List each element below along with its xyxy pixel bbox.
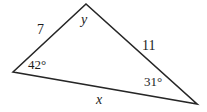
triangle-shape bbox=[0, 0, 207, 112]
side-length-label-bottom: x bbox=[96, 93, 102, 107]
side-length-label-right: 11 bbox=[142, 39, 155, 53]
angle-label-left: 42° bbox=[28, 58, 46, 71]
triangle-diagram: 7 11 x y 42° 31° bbox=[0, 0, 207, 112]
side-length-label-left: 7 bbox=[37, 23, 44, 37]
vertex-angle-label-top: y bbox=[81, 13, 87, 27]
angle-label-right: 31° bbox=[144, 75, 162, 88]
triangle-outline bbox=[13, 4, 197, 104]
